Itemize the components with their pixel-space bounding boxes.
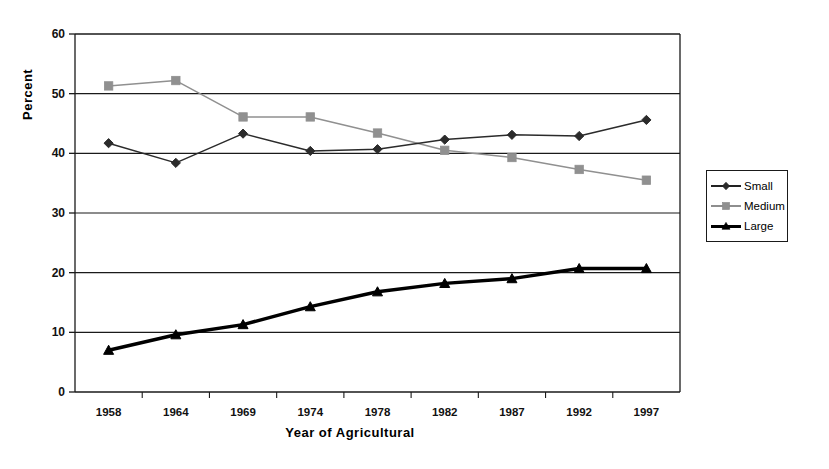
y-tick-label: 10	[52, 325, 66, 339]
data-point-marker	[508, 153, 516, 161]
series-small	[104, 115, 651, 167]
series-layer	[104, 76, 652, 354]
chart-legend: Small Medium Large	[706, 170, 788, 242]
x-tick-label: 1974	[297, 406, 323, 418]
y-axis-ticks: 0102030405060	[52, 27, 75, 399]
x-tick-label: 1978	[365, 406, 391, 418]
x-tick-label: 1997	[634, 406, 660, 418]
series-line	[109, 268, 647, 350]
legend-item-medium[interactable]: Medium	[711, 196, 783, 216]
x-tick-label: 1987	[499, 406, 525, 418]
data-point-marker	[440, 135, 449, 144]
data-point-marker	[104, 139, 113, 148]
y-axis-title: Percent	[20, 69, 35, 120]
data-point-marker	[441, 146, 449, 154]
data-point-marker	[642, 176, 650, 184]
x-tick-label: 1969	[230, 406, 256, 418]
legend-item-large[interactable]: Large	[711, 216, 783, 236]
y-tick-label: 0	[58, 385, 65, 399]
data-point-marker	[238, 129, 247, 138]
legend-marker-diamond-icon	[711, 179, 741, 193]
x-tick-label: 1958	[96, 406, 122, 418]
legend-marker-square-icon	[711, 199, 741, 213]
y-tick-label: 50	[52, 87, 66, 101]
chart-figure: 195819641969197419781982198719921997 010…	[0, 0, 829, 469]
x-tick-label: 1964	[163, 406, 189, 418]
chart-plot-area: 195819641969197419781982198719921997 010…	[0, 0, 829, 469]
series-line	[109, 120, 647, 163]
data-point-marker	[306, 146, 315, 155]
data-point-marker	[239, 113, 247, 121]
data-point-marker	[507, 130, 516, 139]
data-point-marker	[575, 131, 584, 140]
data-point-marker	[373, 129, 381, 137]
legend-label-medium: Medium	[744, 200, 785, 212]
y-tick-label: 60	[52, 27, 66, 41]
data-point-marker	[373, 145, 382, 154]
x-tick-label: 1982	[432, 406, 458, 418]
series-large	[104, 263, 652, 354]
data-point-marker	[172, 76, 180, 84]
data-point-marker	[171, 158, 180, 167]
data-point-marker	[306, 113, 314, 121]
legend-label-large: Large	[744, 220, 773, 232]
y-tick-label: 30	[52, 206, 66, 220]
x-axis-title: Year of Agricultural	[0, 425, 700, 440]
x-axis-ticks: 195819641969197419781982198719921997	[96, 392, 659, 418]
legend-item-small[interactable]: Small	[711, 176, 783, 196]
y-tick-label: 40	[52, 146, 66, 160]
data-point-marker	[104, 82, 112, 90]
data-point-marker	[642, 115, 651, 124]
legend-marker-triangle-icon	[711, 219, 741, 233]
y-tick-label: 20	[52, 266, 66, 280]
legend-label-small: Small	[744, 180, 773, 192]
x-tick-label: 1992	[566, 406, 592, 418]
series-medium	[104, 76, 650, 184]
data-point-marker	[575, 165, 583, 173]
